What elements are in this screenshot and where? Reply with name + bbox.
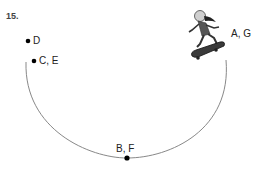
point-d-label: D — [33, 35, 40, 46]
point-bf-label: B, F — [116, 143, 134, 154]
point-bf-dot — [124, 155, 129, 160]
point-ag-label: A, G — [231, 28, 251, 39]
skateboarder-icon — [189, 11, 225, 60]
point-d-dot — [26, 39, 31, 44]
point-ce-label: C, E — [39, 55, 58, 66]
point-ce-dot — [32, 59, 37, 64]
